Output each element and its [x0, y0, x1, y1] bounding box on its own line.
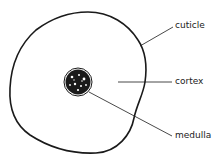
- label-cuticle: cuticle: [175, 21, 205, 30]
- label-cortex: cortex: [175, 77, 203, 86]
- cuticle-leader-line: [140, 27, 173, 46]
- medulla-core: [64, 68, 92, 96]
- label-medulla: medulla: [175, 131, 211, 140]
